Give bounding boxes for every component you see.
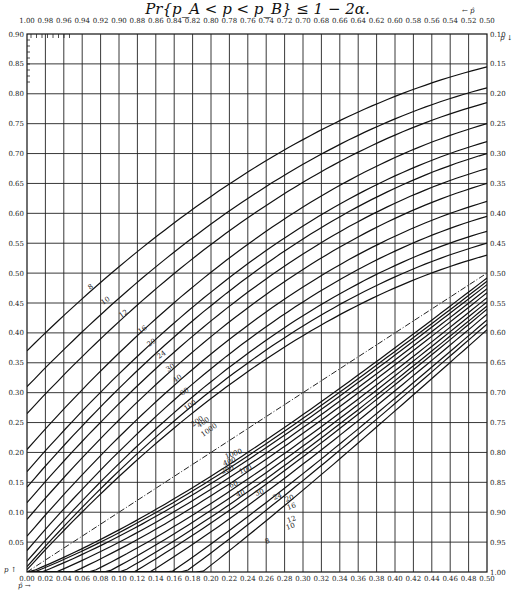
y-right-tick: 0.60 <box>490 329 506 337</box>
y-right-tick: 0.40 <box>490 210 506 218</box>
curve-label-lower: 60 <box>228 479 239 490</box>
x-bottom-tick: 0.18 <box>185 575 201 583</box>
x-top-tick: 0.66 <box>332 17 348 25</box>
x-bottom-tick: 0.46 <box>442 575 458 583</box>
y-right-tick: 0.95 <box>490 539 506 547</box>
x-bottom-tick: 0.04 <box>56 575 72 583</box>
x-top-tick: 0.72 <box>277 17 293 25</box>
y-left-tick: 0.05 <box>8 539 24 547</box>
x-top-tick: 0.74 <box>258 17 274 25</box>
x-top-tick: 0.96 <box>56 17 72 25</box>
upper-curve-n40 <box>27 183 487 519</box>
x-top-tick: 0.60 <box>387 17 403 25</box>
curve-label-upper: 40 <box>172 373 184 385</box>
y-left-tick: 0.75 <box>8 120 24 128</box>
y-right-tick: 0.65 <box>490 359 506 367</box>
x-bottom-tick: 0.40 <box>387 575 403 583</box>
y-right-tick: 0.70 <box>490 389 506 397</box>
x-bottom-tick: 0.10 <box>111 575 127 583</box>
y-right-tick: 0.55 <box>490 300 506 308</box>
curve-label-lower: 8 <box>264 537 271 546</box>
y-left-tick: 0.55 <box>8 240 24 248</box>
x-top-tick: 0.86 <box>148 17 164 25</box>
y-left-tick: 0.10 <box>8 509 24 517</box>
x-bottom-tick: 0.24 <box>240 575 256 583</box>
y-left-tick: 0.25 <box>8 419 24 427</box>
y-right-tick: 0.20 <box>490 90 506 98</box>
x-top-tick: 0.58 <box>406 17 422 25</box>
upper-curve-n24 <box>27 154 487 488</box>
y-right-tick: 0.80 <box>490 449 506 457</box>
confidence-chart: 0.001.000.020.980.040.960.060.940.080.92… <box>0 0 515 592</box>
x-bottom-tick: 0.16 <box>166 575 182 583</box>
x-bottom-tick: 0.08 <box>93 575 109 583</box>
x-top-tick: 0.50 <box>479 17 495 25</box>
y-right-tick: 0.50 <box>490 270 506 278</box>
x-top-tick: 0.64 <box>350 17 366 25</box>
y-right-tick: 0.75 <box>490 419 506 427</box>
y-left-tick: 0.90 <box>8 31 24 39</box>
x-bottom-tick: 0.20 <box>203 575 219 583</box>
x-top-tick: 0.94 <box>74 17 90 25</box>
x-top-tick: 0.78 <box>222 17 238 25</box>
y-left-tick: 0.35 <box>8 359 24 367</box>
x-top-axis-label: ← p̂ <box>462 7 475 15</box>
curve-label-upper: 16 <box>137 324 149 336</box>
lower-curve-n10 <box>27 324 487 572</box>
x-bottom-tick: 0.36 <box>350 575 366 583</box>
curve-label-lower: 40 <box>235 488 246 499</box>
y-left-axis-label: p ↑ <box>4 566 17 574</box>
x-top-tick: 0.68 <box>314 17 330 25</box>
y-right-tick: 1.00 <box>490 569 506 577</box>
y-left-tick: 0.30 <box>8 389 24 397</box>
x-top-tick: 0.54 <box>442 17 458 25</box>
y-right-axis-label: p ↓ <box>500 34 513 42</box>
upper-curve-n20 <box>27 142 487 472</box>
y-left-tick: 0.60 <box>8 210 24 218</box>
x-top-tick: 0.88 <box>130 17 146 25</box>
x-bottom-tick: 0.48 <box>461 575 477 583</box>
y-left-tick: 0.15 <box>8 479 24 487</box>
y-right-tick: 0.90 <box>490 509 506 517</box>
x-top-tick: 0.80 <box>203 17 219 25</box>
y-left-tick: 0.80 <box>8 90 24 98</box>
y-left-tick: 0.65 <box>8 180 24 188</box>
x-top-tick: 0.92 <box>93 17 109 25</box>
y-left-tick: 0.45 <box>8 300 24 308</box>
x-top-tick: 1.00 <box>19 17 35 25</box>
x-top-tick: 0.98 <box>38 17 54 25</box>
x-top-tick: 0.76 <box>240 17 256 25</box>
x-bottom-tick: 0.28 <box>277 575 293 583</box>
lower-curve-n40 <box>27 298 487 572</box>
x-bottom-axis-label: p̂ → <box>18 582 31 590</box>
y-left-tick: 0.70 <box>8 150 24 158</box>
x-top-tick: 0.62 <box>369 17 385 25</box>
x-bottom-tick: 0.22 <box>222 575 238 583</box>
y-left-tick: 0.85 <box>8 60 24 68</box>
x-bottom-tick: 0.14 <box>148 575 164 583</box>
y-right-tick: 0.15 <box>490 60 506 68</box>
x-bottom-tick: 0.12 <box>130 575 146 583</box>
upper-curve-n12 <box>27 103 487 414</box>
lower-curve-n20 <box>27 309 487 572</box>
curve-label-lower: 24 <box>272 491 284 502</box>
x-bottom-tick: 0.34 <box>332 575 348 583</box>
curve-label-upper: 30 <box>165 362 177 374</box>
x-bottom-tick: 0.42 <box>406 575 422 583</box>
curve-label-upper: 8 <box>87 283 95 292</box>
y-right-tick: 0.85 <box>490 479 506 487</box>
x-bottom-tick: 0.32 <box>314 575 330 583</box>
y-right-tick: 0.35 <box>490 180 506 188</box>
x-top-tick: 0.84 <box>166 17 182 25</box>
x-top-tick: 0.52 <box>461 17 477 25</box>
x-bottom-tick: 0.26 <box>258 575 274 583</box>
y-left-tick: 0.40 <box>8 329 24 337</box>
x-bottom-tick: 0.44 <box>424 575 440 583</box>
curve-label-lower: 12 <box>286 514 297 525</box>
y-left-tick: 0.20 <box>8 449 24 457</box>
x-top-tick: 0.82 <box>185 17 201 25</box>
y-left-tick: 0.50 <box>8 270 24 278</box>
x-bottom-tick: 0.06 <box>74 575 90 583</box>
curve-label-upper: 10 <box>100 295 112 307</box>
x-bottom-tick: 0.30 <box>295 575 311 583</box>
